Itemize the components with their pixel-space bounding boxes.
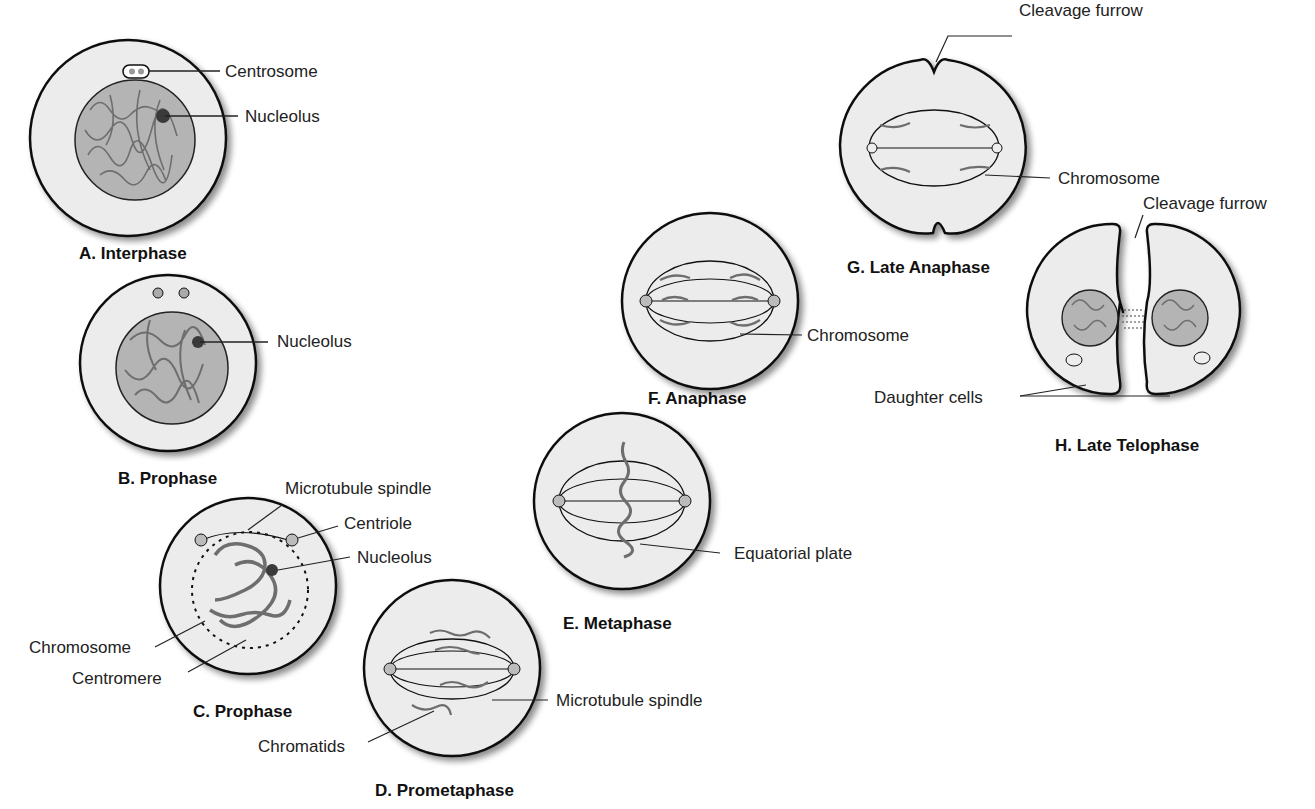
title-prophase-b: B. Prophase — [118, 470, 217, 487]
cell-late-anaphase — [840, 36, 1050, 234]
label-chromosome-f: Chromosome — [807, 327, 909, 344]
label-nucleolus-a: Nucleolus — [245, 108, 320, 125]
cell-interphase — [30, 40, 238, 236]
label-daughter-cells: Daughter cells — [874, 389, 983, 406]
label-chromosome-g: Chromosome — [1058, 170, 1160, 187]
label-cleavage-furrow-g: Cleavage furrow — [1019, 2, 1143, 19]
label-centromere: Centromere — [72, 670, 162, 687]
title-prometaphase: D. Prometaphase — [375, 782, 514, 799]
label-chromatids: Chromatids — [258, 738, 345, 755]
title-metaphase: E. Metaphase — [563, 615, 672, 632]
title-late-anaphase: G. Late Anaphase — [847, 259, 990, 276]
label-centriole: Centriole — [344, 515, 412, 532]
cell-metaphase — [534, 413, 720, 589]
label-microtubule-spindle-d: Microtubule spindle — [556, 692, 702, 709]
title-interphase: A. Interphase — [79, 245, 187, 262]
label-microtubule-spindle-c: Microtubule spindle — [285, 480, 431, 497]
label-cleavage-furrow-h: Cleavage furrow — [1143, 195, 1267, 212]
label-nucleolus-c: Nucleolus — [357, 549, 432, 566]
label-equatorial-plate: Equatorial plate — [734, 545, 852, 562]
title-anaphase: F. Anaphase — [648, 390, 747, 407]
label-nucleolus-b: Nucleolus — [277, 333, 352, 350]
title-late-telophase: H. Late Telophase — [1055, 437, 1199, 454]
cell-late-telophase — [1020, 215, 1240, 396]
cell-prophase-early — [80, 275, 268, 451]
cell-prometaphase — [364, 580, 548, 756]
label-centrosome: Centrosome — [225, 63, 318, 80]
cell-prophase-late — [155, 498, 350, 674]
label-chromosome-c: Chromosome — [29, 639, 131, 656]
centrosome-icon — [123, 65, 149, 78]
title-prophase-c: C. Prophase — [193, 703, 292, 720]
cell-anaphase — [622, 213, 802, 389]
